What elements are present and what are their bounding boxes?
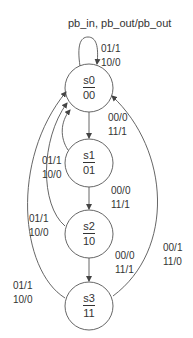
- label-line: 11/1: [111, 199, 130, 211]
- state-code: 00: [65, 89, 113, 101]
- label-s2-s0: 01/1 10/0: [29, 213, 48, 239]
- state-s2: s2 10: [65, 210, 113, 258]
- label-line: 10/0: [13, 294, 32, 306]
- state-divider: [83, 305, 95, 306]
- label-s0-s1: 00/0 11/1: [108, 112, 127, 138]
- state-s3: s3 11: [65, 282, 113, 330]
- label-line: 00/0: [115, 250, 134, 262]
- state-code: 10: [65, 235, 113, 247]
- label-line: 01/1: [29, 213, 48, 225]
- label-line: 00/0: [108, 112, 127, 124]
- label-s0-s0: 01/1 10/0: [101, 43, 120, 69]
- state-divider: [83, 233, 95, 234]
- label-s2-s3: 00/0 11/1: [115, 250, 134, 276]
- label-line: 01/1: [101, 43, 120, 55]
- state-name: s1: [65, 149, 113, 161]
- label-s3-s0: 01/1 10/0: [13, 280, 32, 306]
- state-divider: [83, 162, 95, 163]
- state-s0: s0 00: [65, 64, 113, 112]
- state-name: s2: [65, 220, 113, 232]
- state-divider: [83, 87, 95, 88]
- label-line: 01/1: [42, 155, 61, 167]
- diagram-header: pb_in, pb_out/pb_out: [68, 17, 171, 29]
- label-line: 10/0: [42, 169, 61, 181]
- label-line: 10/0: [101, 57, 120, 69]
- state-code: 01: [65, 164, 113, 176]
- label-line: 11/1: [108, 126, 127, 138]
- label-line: 01/1: [13, 280, 32, 292]
- state-code: 11: [65, 307, 113, 319]
- label-s3-s0-right: 00/1 11/0: [163, 242, 182, 268]
- label-s1-s0: 01/1 10/0: [42, 155, 61, 181]
- label-line: 10/0: [29, 227, 48, 239]
- label-line: 00/0: [111, 185, 130, 197]
- label-line: 11/0: [163, 256, 182, 268]
- label-line: 00/1: [163, 242, 182, 254]
- state-s1: s1 01: [65, 139, 113, 187]
- edge-s3-s0: [28, 92, 66, 298]
- state-name: s0: [65, 74, 113, 86]
- state-name: s3: [65, 292, 113, 304]
- label-s1-s2: 00/0 11/1: [111, 185, 130, 211]
- edge-s0-s0: [79, 37, 98, 66]
- label-line: 11/1: [115, 264, 134, 276]
